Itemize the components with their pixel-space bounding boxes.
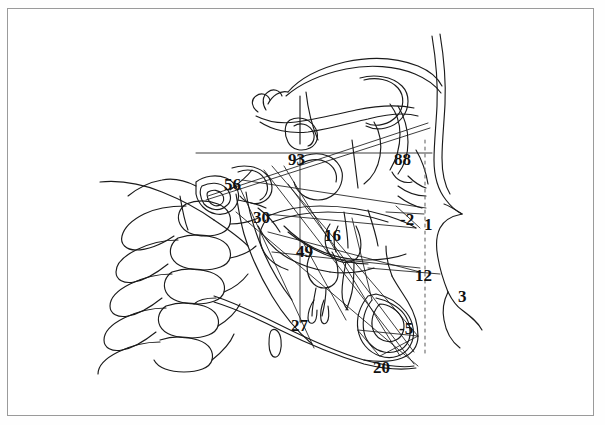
cranial-base-outline [252,59,442,144]
measurement-27: 27 [291,317,308,334]
measurement-56: 56 [224,176,241,193]
orbit-zygoma [352,76,412,188]
measurement-3: 3 [458,288,467,305]
mandible [194,192,418,369]
measurement-49: 49 [296,243,313,260]
measurement-20: 20 [373,359,390,376]
measurement-93: 93 [288,151,305,168]
measurement-minus-5: -5 [399,320,413,337]
measurement-minus-2: -2 [400,211,414,228]
cephalometric-figure: 93 88 56 30 16 -2 1 49 12 3 27 -5 20 [0,0,605,425]
tracing-canvas [0,0,605,425]
measurement-1: 1 [424,216,433,233]
measurement-16: 16 [324,227,341,244]
measurement-88: 88 [394,151,411,168]
measurement-30: 30 [253,209,270,226]
hyoid [269,329,281,357]
lower-teeth [307,252,338,324]
measurement-12: 12 [415,267,432,284]
